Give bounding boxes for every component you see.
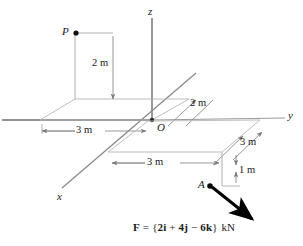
equation-plus: + (169, 221, 175, 233)
statics-force-diagram: z x y P O A 2 m 3 m 2 m 3 m 3 m 1 m F={2… (0, 0, 303, 246)
lower-reference-plane (108, 120, 260, 152)
axis-label-z: z (148, 6, 152, 17)
equation-minus: − (191, 221, 197, 233)
dimension-label-p-height: 2 m (92, 58, 108, 69)
dimension-label-a-horizontal: 3 m (147, 157, 163, 168)
diagram-canvas (0, 0, 303, 246)
force-units: kN (222, 221, 236, 233)
force-term-i: 2i (158, 221, 167, 233)
point-label-o: O (157, 122, 165, 133)
axis-label-y: y (288, 110, 293, 121)
force-term-j: 4j (179, 221, 188, 233)
upper-reference-plane (40, 99, 189, 120)
equation-equals: = (143, 221, 149, 233)
point-label-a: A (198, 179, 205, 190)
dimension-label-p-horizontal: 3 m (76, 125, 92, 136)
dimension-label-a-diagonal: 3 m (240, 137, 256, 148)
force-term-k: 6k (200, 221, 212, 233)
axis-label-x: x (57, 191, 62, 202)
origin-marker (150, 118, 154, 122)
dimension-a-drop (222, 152, 240, 186)
equation-close-brace: } (212, 221, 217, 233)
force-vector-arrow (212, 187, 252, 219)
dimension-label-o-diagonal: 2 m (190, 98, 206, 109)
dimension-label-a-drop: 1 m (239, 165, 255, 176)
force-equation: F={2i+4j−6k}kN (133, 222, 235, 233)
force-symbol: F (133, 221, 140, 233)
point-label-p: P (62, 26, 69, 37)
point-p-marker (73, 30, 78, 35)
